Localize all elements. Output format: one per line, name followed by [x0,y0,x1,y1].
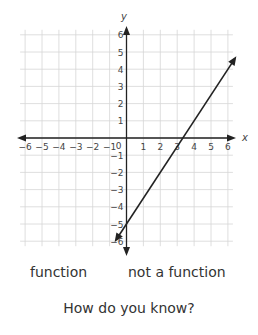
choice-function[interactable]: function [30,264,87,280]
x-tick-label: 4 [191,142,197,152]
line-end-arrow-icon [228,56,236,66]
y-axis-down-arrow-icon [123,247,130,256]
y-tick-label: 6 [118,30,124,40]
x-tick-label: 2 [157,142,163,152]
x-tick-label: 1 [141,142,147,152]
x-axis-label: x [241,132,248,143]
y-axis-label: y [120,11,128,22]
y-tick-label: 5 [118,48,124,58]
y-tick-label: 1 [118,116,124,126]
axes [17,26,236,256]
x-axis-right-arrow-icon [227,135,236,142]
y-tick-label: −4 [110,202,124,212]
function-line [119,62,233,236]
x-tick-label: −6 [18,142,32,152]
x-tick-label: −4 [52,142,66,152]
x-tick-label: −3 [69,142,82,152]
y-tick-label: 3 [118,82,124,92]
choice-not-a-function[interactable]: not a function [128,264,226,280]
y-tick-label: −1 [110,151,123,161]
y-tick-label: −3 [110,185,123,195]
x-tick-label: −5 [35,142,48,152]
plotted-line [115,56,237,242]
coordinate-graph: xy−6−5−4−3−2−10123456−6−5−4−3−2−1123456 [0,0,258,260]
x-tick-label: 5 [208,142,214,152]
y-tick-label: 2 [118,99,124,109]
x-axis-left-arrow-icon [17,135,26,142]
y-tick-label: 4 [118,65,124,75]
y-tick-label: −5 [110,220,123,230]
x-tick-label: 6 [225,142,231,152]
question-text: How do you know? [0,300,258,316]
origin-label: 0 [116,141,122,151]
x-tick-label: −2 [86,142,99,152]
tick-labels: xy−6−5−4−3−2−10123456−6−5−4−3−2−1123456 [18,11,248,247]
y-axis-up-arrow-icon [123,26,130,35]
y-tick-label: −2 [110,168,123,178]
